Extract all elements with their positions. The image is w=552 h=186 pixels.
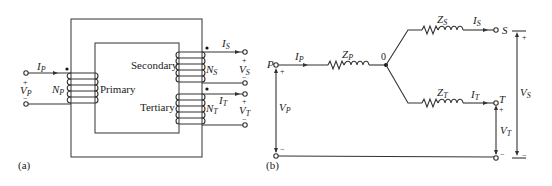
primary-terminal-plus (24, 71, 28, 75)
primary-polarity-dot (65, 67, 68, 70)
vt-plus-b: + (499, 105, 504, 114)
vp-label-b: VP (279, 101, 291, 115)
zt-label: ZT (437, 86, 448, 100)
vp-plus-b: + (280, 67, 285, 76)
is-arrow-icon (235, 50, 240, 54)
vp-minus: − (23, 94, 28, 103)
is-label-b: IS (472, 14, 481, 28)
panel-a-label: (a) (18, 159, 31, 172)
vs-minus-b: − (522, 151, 527, 160)
tertiary-terminal-plus (243, 92, 247, 96)
primary-label: Primary (100, 83, 136, 95)
tertiary-polarity-dot (205, 87, 208, 90)
node-t-terminal (494, 101, 498, 105)
nt-label: NT (205, 102, 218, 116)
ip-arrow-icon (53, 71, 58, 75)
panel-a-transformer: IP + VP − NP Primary IS + VS − NS Second… (18, 19, 251, 172)
it-arrow-icon-b (483, 101, 488, 105)
zt-resistor-icon (422, 99, 438, 107)
vs-label-b: VS (520, 86, 531, 100)
vt-minus-b: − (500, 150, 505, 159)
np-label: NP (51, 83, 64, 97)
tertiary-return-terminal (494, 156, 498, 160)
it-label: IT (218, 94, 228, 108)
vt-minus: − (242, 115, 247, 124)
panel-b-equivalent-circuit: P + − IP ZP 0 VP ZS IS S + VS − ZT IT T … (266, 13, 531, 172)
zs-label: ZS (437, 13, 447, 27)
zp-resistor-icon (328, 61, 344, 69)
vt-label-b: VT (500, 124, 512, 138)
zs-resistor-icon (422, 26, 438, 34)
vs-plus-b: + (522, 33, 527, 42)
ns-label: NS (205, 63, 217, 77)
it-label-b: IT (470, 88, 480, 102)
three-winding-transformer-figure: IP + VP − NP Primary IS + VS − NS Second… (0, 0, 552, 186)
secondary-terminal-plus (243, 50, 247, 54)
node-0-label: 0 (381, 51, 386, 62)
core-outer (71, 19, 202, 157)
it-arrow-icon (235, 92, 240, 96)
secondary-label: Secondary (131, 59, 178, 71)
ip-label-b: IP (294, 50, 304, 64)
zs-inductor-icon (438, 26, 463, 30)
secondary-polarity-dot (205, 46, 208, 49)
primary-winding (24, 67, 98, 106)
node-s-label: S (502, 24, 508, 36)
tertiary-label: Tertiary (140, 101, 175, 113)
node-p-label: P (266, 58, 274, 70)
ip-label: IP (36, 60, 46, 74)
vs-minus: − (242, 73, 247, 82)
vp-minus-b: − (280, 145, 285, 154)
primary-return-terminal (274, 154, 278, 158)
node-s-terminal (494, 28, 498, 32)
is-label: IS (221, 37, 230, 51)
ip-arrow-icon-b (303, 63, 308, 67)
is-arrow-icon-b (483, 28, 488, 32)
panel-b-label: (b) (266, 159, 279, 172)
zp-label: ZP (342, 48, 353, 62)
node-t-label: T (499, 93, 506, 105)
zt-inductor-icon (438, 99, 463, 103)
node-p-terminal (274, 63, 278, 67)
